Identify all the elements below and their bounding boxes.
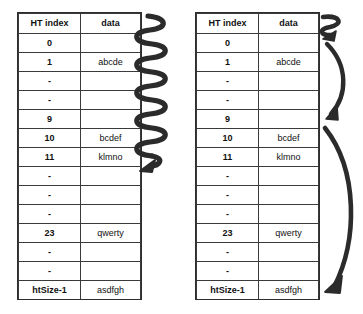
cell-data: qwerty: [259, 224, 319, 243]
table-row: -: [197, 243, 319, 262]
cell-index: -: [197, 205, 259, 224]
cell-data: [81, 34, 141, 53]
cell-data: [81, 110, 141, 129]
cell-index: -: [19, 205, 81, 224]
cell-index: htSize-1: [19, 281, 81, 300]
cell-index: 0: [197, 34, 259, 53]
cell-data: [259, 167, 319, 186]
table-row: 1 abcde: [19, 53, 141, 72]
table-row: htSize-1 asdfgh: [19, 281, 141, 300]
hash-table-left-body: 0 1 abcde - - 9 10 bcdef: [19, 34, 141, 300]
cell-index: -: [197, 91, 259, 110]
table-row: -: [197, 167, 319, 186]
table-row: -: [19, 91, 141, 110]
cell-index: 23: [19, 224, 81, 243]
table-row: -: [19, 72, 141, 91]
table-row: -: [19, 262, 141, 281]
cell-index: 10: [19, 129, 81, 148]
table-row: -: [19, 167, 141, 186]
table-row: -: [197, 72, 319, 91]
cell-index: 1: [19, 53, 81, 72]
upper-arc-arrow: [326, 44, 343, 120]
cell-data: [81, 243, 141, 262]
cell-data: klmno: [259, 148, 319, 167]
cell-data: [81, 72, 141, 91]
small-zigzag-arrow: [322, 17, 339, 41]
cell-index: 1: [197, 53, 259, 72]
cell-index: 9: [197, 110, 259, 129]
cell-data: asdfgh: [259, 281, 319, 300]
table-row: 1 abcde: [197, 53, 319, 72]
small-zigzag-arrowhead: [323, 31, 336, 41]
column-header-data: data: [81, 14, 141, 34]
cell-data: [259, 91, 319, 110]
hash-table-right-body: 0 1 abcde - - 9 10 bcdef: [197, 34, 319, 300]
cell-index: 9: [19, 110, 81, 129]
cell-index: -: [19, 243, 81, 262]
table-row: 10 bcdef: [197, 129, 319, 148]
table-row: 9: [19, 110, 141, 129]
table-row: 0: [197, 34, 319, 53]
cell-data: [81, 167, 141, 186]
table-row: htSize-1 asdfgh: [197, 281, 319, 300]
table-row: 11 klmno: [197, 148, 319, 167]
cell-index: -: [197, 186, 259, 205]
cell-index: -: [19, 186, 81, 205]
coil-arrow: [137, 16, 166, 172]
cell-data: [259, 110, 319, 129]
table-row: 9: [197, 110, 319, 129]
cell-index: 0: [19, 34, 81, 53]
cell-data: [81, 186, 141, 205]
cell-data: abcde: [259, 53, 319, 72]
cell-index: -: [197, 262, 259, 281]
cell-data: [81, 205, 141, 224]
table-header-row: HT index data: [19, 14, 141, 34]
cell-data: [81, 91, 141, 110]
cell-data: [259, 34, 319, 53]
table-row: 0: [19, 34, 141, 53]
table-row: 23 qwerty: [19, 224, 141, 243]
hash-table-left: HT index data 0 1 abcde - - 9: [18, 13, 141, 300]
hash-table-right: HT index data 0 1 abcde - - 9: [196, 13, 319, 300]
cell-index: -: [197, 72, 259, 91]
column-header-index: HT index: [197, 14, 259, 34]
cell-index: 10: [197, 129, 259, 148]
cell-index: -: [197, 243, 259, 262]
cell-index: -: [19, 167, 81, 186]
cell-data: [259, 243, 319, 262]
cell-data: [259, 262, 319, 281]
table-row: 10 bcdef: [19, 129, 141, 148]
cell-index: -: [19, 72, 81, 91]
cell-data: [259, 72, 319, 91]
lower-arc-arrow: [325, 128, 351, 293]
cell-data: [259, 205, 319, 224]
diagram-canvas: HT index data 0 1 abcde - - 9: [0, 0, 363, 314]
table-row: -: [197, 205, 319, 224]
lower-arc-arrowhead: [325, 276, 342, 293]
cell-index: 11: [19, 148, 81, 167]
table-row: -: [197, 186, 319, 205]
cell-index: htSize-1: [197, 281, 259, 300]
table-row: -: [19, 186, 141, 205]
table-row: -: [19, 243, 141, 262]
cell-data: [259, 186, 319, 205]
cell-data: bcdef: [259, 129, 319, 148]
cell-data: [81, 262, 141, 281]
cell-data: klmno: [81, 148, 141, 167]
cell-index: -: [197, 167, 259, 186]
cell-data: bcdef: [81, 129, 141, 148]
cell-index: -: [19, 91, 81, 110]
cell-index: 11: [197, 148, 259, 167]
table-row: 11 klmno: [19, 148, 141, 167]
coil-arrowhead: [140, 160, 155, 172]
table-header-row: HT index data: [197, 14, 319, 34]
cell-index: -: [19, 262, 81, 281]
cell-data: qwerty: [81, 224, 141, 243]
table-row: -: [19, 205, 141, 224]
column-header-index: HT index: [19, 14, 81, 34]
cell-data: abcde: [81, 53, 141, 72]
upper-arc-arrowhead: [326, 106, 338, 120]
table-row: -: [197, 262, 319, 281]
cell-index: 23: [197, 224, 259, 243]
column-header-data: data: [259, 14, 319, 34]
